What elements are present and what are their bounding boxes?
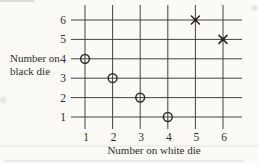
x-tick-label: 5 (194, 131, 200, 143)
y-tick-label: 3 (60, 72, 66, 84)
x-tick-label: 4 (166, 131, 172, 143)
y-tick-label: 2 (60, 92, 66, 104)
x-axis-title: Number on white die (84, 144, 224, 157)
scatter-plot: 123456123456 (0, 0, 258, 164)
y-tick-label: 4 (60, 53, 66, 65)
x-tick-label: 2 (111, 131, 117, 143)
y-tick-label: 6 (60, 14, 66, 26)
y-tick-label: 1 (60, 111, 66, 123)
x-tick-label: 6 (221, 131, 227, 143)
y-tick-label: 5 (60, 33, 66, 45)
dice-scatter-figure: Number on black die 123456123456 Number … (0, 0, 258, 164)
x-tick-label: 1 (83, 131, 89, 143)
x-tick-label: 3 (138, 131, 144, 143)
